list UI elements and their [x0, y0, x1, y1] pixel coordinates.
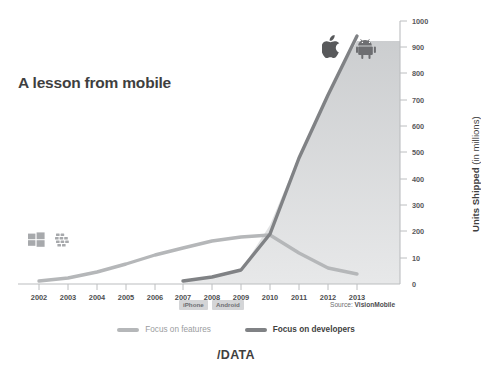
x-tick-2003: 2003 — [60, 293, 76, 302]
brand-logo: /DATA — [0, 348, 472, 362]
android-icon — [356, 38, 376, 63]
legend-label-developers: Focus on developers — [273, 325, 355, 334]
y-axis-title-strong: Units Shipped — [470, 168, 481, 233]
x-tick-2006: 2006 — [147, 293, 163, 302]
annotation-badge-iphone: iPhone — [179, 300, 208, 310]
legend-swatch-developers — [245, 328, 267, 332]
y-tick-700: 700 — [412, 96, 424, 105]
y-tick-500: 500 — [412, 148, 424, 157]
legend-swatch-features — [117, 328, 139, 332]
x-tick-2005: 2005 — [118, 293, 134, 302]
y-tick-200: 200 — [412, 227, 424, 236]
blackberry-icon — [55, 233, 75, 251]
y-tick-300: 300 — [412, 201, 424, 210]
chart-legend: Focus on features Focus on developers — [0, 325, 472, 334]
legend-item-focus-on-features[interactable]: Focus on features — [117, 325, 211, 334]
source-note: Source: VisionMobile — [330, 301, 395, 308]
y-tick-900: 900 — [412, 43, 424, 52]
x-tick-2011: 2011 — [291, 293, 307, 302]
y-tick-0: 0 — [412, 280, 416, 289]
y-tick-800: 800 — [412, 69, 424, 78]
legend-item-focus-on-developers[interactable]: Focus on developers — [245, 325, 355, 334]
y-tick-1000: 1000 — [412, 17, 428, 26]
source-name: VisionMobile — [355, 301, 396, 308]
y-tick-600: 600 — [412, 122, 424, 131]
x-tick-2004: 2004 — [89, 293, 106, 302]
y-axis-ticks — [400, 21, 407, 258]
legend-label-features: Focus on features — [145, 325, 211, 334]
x-tick-2010: 2010 — [262, 293, 278, 302]
y-tick-400: 400 — [412, 175, 424, 184]
x-tick-2002: 2002 — [31, 293, 47, 302]
y-tick-100: 10 — [412, 254, 420, 263]
annotation-badge-android: Android — [212, 300, 244, 310]
apple-icon — [322, 35, 341, 62]
y-axis-title: Units Shipped (in millions) — [470, 72, 481, 232]
source-prefix: Source: — [330, 301, 355, 308]
y-axis-title-unit: (in millions) — [470, 116, 481, 165]
x-axis-ticks — [39, 284, 357, 290]
windows-icon — [28, 232, 45, 251]
